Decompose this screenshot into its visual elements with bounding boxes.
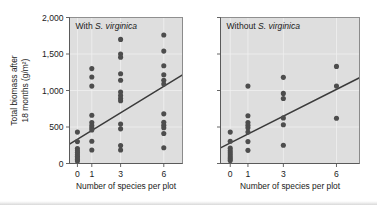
- data-point: [334, 64, 339, 69]
- data-point: [245, 139, 250, 144]
- x-tick-label-0: 0: [75, 169, 80, 179]
- y-axis-title-line2: 18 months (g/m²): [20, 58, 30, 122]
- y-tick-label-1500: 1,500: [42, 49, 64, 59]
- data-point: [118, 122, 123, 127]
- data-point: [89, 127, 94, 132]
- data-point: [89, 113, 94, 118]
- y-tick-label-0: 0: [59, 159, 64, 169]
- data-point: [281, 91, 286, 96]
- panel-title-species: S. virginica: [258, 21, 300, 31]
- x-tick-label-3: 3: [118, 169, 123, 179]
- panel-title-without-s-virginica: Without S. virginica: [227, 21, 301, 31]
- data-point: [161, 111, 166, 116]
- x-axis-title: Number of species per plot: [240, 181, 341, 191]
- data-point: [118, 143, 123, 148]
- data-point: [245, 148, 250, 153]
- data-point: [161, 63, 166, 68]
- data-point: [334, 116, 339, 121]
- x-tick-label-0: 0: [228, 169, 233, 179]
- panel-title-prefix: With: [76, 21, 96, 31]
- x-axis-title: Number of species per plot: [76, 181, 177, 191]
- data-point: [75, 139, 80, 144]
- data-point: [334, 84, 339, 89]
- data-point: [281, 75, 286, 80]
- data-point: [161, 125, 166, 130]
- panel-title-species: S. virginica: [95, 21, 137, 31]
- data-point: [118, 37, 123, 42]
- data-point: [75, 158, 80, 163]
- data-point: [161, 49, 166, 54]
- figure-container: With S. virginica0136Number of species p…: [0, 0, 377, 205]
- data-point: [161, 32, 166, 37]
- data-point: [161, 131, 166, 136]
- panel-title-prefix: Without: [227, 21, 259, 31]
- x-tick-label-6: 6: [334, 169, 339, 179]
- data-point: [245, 113, 250, 118]
- data-point: [281, 143, 286, 148]
- y-tick-label-2000: 2,000: [42, 13, 64, 23]
- data-point: [161, 72, 166, 77]
- scatter-chart: With S. virginica0136Number of species p…: [0, 0, 377, 205]
- y-tick-label-1000: 1,000: [42, 86, 64, 96]
- data-point: [89, 66, 94, 71]
- data-point: [75, 130, 80, 135]
- data-point: [245, 84, 250, 89]
- data-point: [118, 71, 123, 76]
- x-tick-label-1: 1: [246, 169, 251, 179]
- data-point: [89, 139, 94, 144]
- data-point: [161, 81, 166, 86]
- data-point: [89, 84, 94, 89]
- x-tick-label-1: 1: [89, 169, 94, 179]
- data-point: [281, 96, 286, 101]
- data-point: [245, 125, 250, 130]
- data-point: [89, 147, 94, 152]
- data-point: [118, 147, 123, 152]
- x-tick-label-6: 6: [161, 169, 166, 179]
- data-point: [281, 122, 286, 127]
- panel-with-s-virginica: With S. virginica0136Number of species p…: [42, 13, 183, 191]
- x-tick-label-3: 3: [281, 169, 286, 179]
- data-point: [118, 126, 123, 131]
- data-point: [118, 78, 123, 83]
- data-point: [161, 145, 166, 150]
- data-point: [118, 98, 123, 103]
- figure-bottom-edge: [0, 201, 377, 205]
- y-axis-title-line1: Total biomass after: [9, 55, 19, 125]
- data-point: [118, 55, 123, 60]
- data-point: [281, 115, 286, 120]
- y-tick-label-500: 500: [49, 122, 64, 132]
- panel-without-s-virginica: Without S. virginica0136Number of specie…: [217, 18, 360, 191]
- data-point: [228, 139, 233, 144]
- y-axis-title-group: Total biomass after18 months (g/m²): [9, 55, 30, 125]
- data-point: [245, 130, 250, 135]
- data-point: [228, 130, 233, 135]
- data-point: [228, 158, 233, 163]
- data-point: [89, 74, 94, 79]
- panel-title-with-s-virginica: With S. virginica: [76, 21, 138, 31]
